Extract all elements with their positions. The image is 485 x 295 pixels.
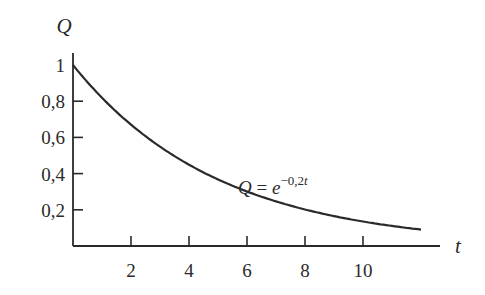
- x-tick-label: 2: [126, 260, 136, 281]
- x-tick-label: 8: [300, 260, 310, 281]
- exponential-decay-chart: 2468100,20,40,60,81 Q t Q = e−0,2t: [0, 0, 485, 295]
- axes: [73, 53, 440, 246]
- x-tick-label: 6: [242, 260, 252, 281]
- decay-curve: [73, 65, 421, 230]
- y-axis-label: Q: [56, 14, 71, 38]
- x-axis-label: t: [455, 234, 462, 258]
- y-tick-label: 0,8: [41, 91, 65, 112]
- ticks: 2468100,20,40,60,81: [41, 55, 372, 281]
- y-tick-label: 1: [56, 55, 66, 76]
- x-tick-label: 4: [184, 260, 194, 281]
- y-tick-label: 0,2: [41, 200, 65, 221]
- curve-formula-annotation: Q = e−0,2t: [238, 173, 308, 198]
- x-tick-label: 10: [354, 260, 373, 281]
- y-tick-label: 0,6: [41, 127, 65, 148]
- y-tick-label: 0,4: [41, 164, 65, 185]
